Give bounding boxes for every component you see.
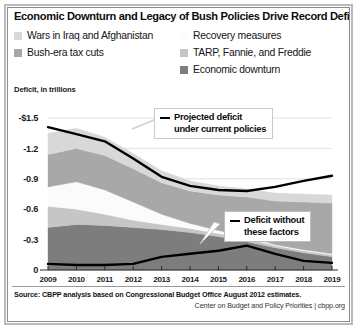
legend-item-downturn: Economic downturn: [180, 61, 311, 78]
chart-figure: Economic Downturn and Legacy of Bush Pol…: [0, 0, 357, 329]
annotation-projected-deficit: Projected deficit under current policies: [154, 108, 273, 139]
legend-label-wars: Wars in Iraq and Afghanistan: [27, 30, 153, 41]
y-axis-tick-labels: -$1.5-1.2-0.9-0.6-0.30: [19, 113, 39, 275]
annotation-without-line2: these factors: [244, 227, 299, 237]
source-note: Source: CBPP analysis based on Congressi…: [14, 290, 301, 299]
annotation-deficit-without-factors: Deficit without these factors: [224, 211, 311, 242]
annotation-projected-line1: Projected deficit: [174, 112, 242, 122]
x-tick-label: 2010: [68, 275, 86, 284]
annotation-line-marker-without: [230, 220, 240, 222]
legend-label-recovery: Recovery measures: [193, 30, 281, 41]
chart-area-bands: [48, 128, 332, 270]
credit-note: Center on Budget and Policy Priorities |…: [195, 301, 345, 310]
x-tick-label: 2018: [295, 275, 313, 284]
legend-item-tarp: TARP, Fannie, and Freddie: [180, 44, 311, 61]
y-tick-label: -0.3: [23, 235, 38, 245]
x-tick-label: 2019: [324, 275, 342, 284]
y-axis-caption: Deficit, in trillions: [14, 85, 76, 94]
x-tick-label: 2011: [97, 275, 114, 284]
x-tick-label: 2016: [238, 275, 256, 284]
x-tick-label: 2017: [267, 275, 285, 284]
x-axis-tick-labels: 2009201020112012201320142015201620172018…: [40, 275, 342, 284]
x-tick-label: 2014: [182, 275, 200, 284]
y-tick-label: -0.9: [23, 174, 38, 184]
legend-label-tarp: TARP, Fannie, and Freddie: [193, 47, 311, 58]
x-tick-label: 2012: [125, 275, 143, 284]
legend-column-left: Wars in Iraq and Afghanistan Bush-era ta…: [14, 27, 153, 61]
y-tick-label: 0: [33, 265, 38, 275]
annotation-without-line1: Deficit without: [244, 215, 304, 225]
legend-swatch-tarp: [180, 49, 188, 57]
legend-item-recovery: Recovery measures: [180, 27, 311, 44]
legend-item-wars: Wars in Iraq and Afghanistan: [14, 27, 153, 44]
legend-label-downturn: Economic downturn: [193, 64, 280, 75]
figure-content: Economic Downturn and Legacy of Bush Pol…: [8, 8, 349, 321]
legend-column-right: Recovery measures TARP, Fannie, and Fred…: [180, 27, 311, 78]
footer-divider: [12, 286, 345, 287]
y-tick-label: -1.2: [23, 144, 38, 154]
annotation-projected-line2: under current policies: [174, 124, 266, 134]
annotation-without-text: Deficit without these factors: [244, 215, 304, 238]
x-tick-label: 2013: [153, 275, 171, 284]
legend-swatch-wars: [14, 32, 22, 40]
x-tick-label: 2015: [210, 275, 228, 284]
legend-swatch-tax-cuts: [14, 49, 22, 57]
legend-item-tax-cuts: Bush-era tax cuts: [14, 44, 153, 61]
y-tick-label: -$1.5: [19, 113, 39, 123]
legend-swatch-downturn: [180, 66, 188, 74]
x-tick-label: 2009: [40, 275, 58, 284]
annotation-projected-text: Projected deficit under current policies: [174, 112, 266, 135]
chart-title: Economic Downturn and Legacy of Bush Pol…: [14, 10, 345, 23]
legend-label-tax-cuts: Bush-era tax cuts: [27, 47, 104, 58]
y-tick-label: -0.6: [23, 204, 38, 214]
legend-swatch-recovery: [180, 32, 188, 40]
annotation-line-marker-projected: [160, 117, 170, 119]
chart-legend: Wars in Iraq and Afghanistan Bush-era ta…: [14, 27, 347, 81]
